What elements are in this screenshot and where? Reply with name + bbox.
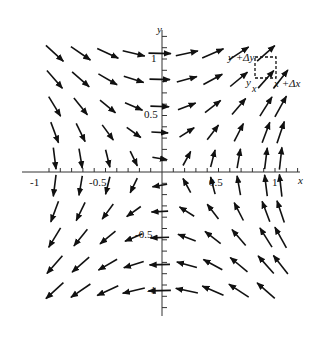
field-arrow	[229, 284, 249, 297]
field-arrow	[130, 151, 137, 166]
field-arrow	[127, 127, 141, 137]
field-arrow	[202, 49, 223, 58]
field-arrow	[230, 72, 247, 86]
annotation-x: x	[252, 84, 256, 94]
field-arrow	[257, 283, 275, 299]
field-arrow	[234, 203, 243, 221]
field-arrow	[46, 45, 64, 61]
field-arrow	[211, 150, 216, 167]
field-arrow	[124, 76, 144, 82]
field-arrow	[98, 259, 117, 270]
field-arrow	[74, 98, 88, 115]
x-tick-label-neg05: -0.5	[89, 177, 106, 188]
field-arrow	[232, 98, 246, 114]
field-arrow	[100, 100, 116, 113]
field-arrow	[207, 204, 218, 219]
field-arrow	[180, 207, 195, 216]
field-arrow	[46, 283, 64, 299]
field-arrow	[207, 125, 218, 140]
field-arrow	[106, 150, 110, 168]
field-arrow	[151, 211, 168, 212]
field-arrow	[53, 175, 56, 197]
field-arrow	[51, 122, 59, 143]
field-arrow	[279, 174, 282, 196]
field-arrow	[152, 157, 167, 160]
field-arrow	[180, 128, 195, 137]
field-arrow	[71, 47, 91, 60]
field-arrow	[49, 97, 61, 117]
field-arrow	[258, 71, 274, 89]
annotation-y-plus-dy: y +Δy	[228, 52, 254, 63]
field-arrow	[277, 201, 284, 223]
y-tick-label-1: 1	[151, 53, 157, 64]
field-arrow	[183, 179, 191, 193]
field-arrow	[151, 132, 168, 133]
field-arrow	[275, 96, 287, 117]
x-tick-label-neg1: -1	[30, 177, 39, 188]
field-arrow	[150, 264, 171, 265]
y-tick-label-neg1: -1	[147, 285, 156, 296]
annotation-x-plus-dx: x +Δx	[274, 78, 300, 89]
field-arrow	[102, 125, 113, 140]
field-arrow	[178, 234, 196, 241]
field-arrow	[205, 231, 221, 243]
field-arrow	[98, 74, 117, 85]
annotation-y: y	[246, 77, 251, 88]
field-arrow	[205, 100, 221, 112]
field-arrow	[275, 227, 287, 248]
field-arrow	[265, 175, 268, 196]
field-arrow	[47, 256, 63, 274]
field-arrow	[237, 176, 240, 195]
field-arrow	[176, 288, 198, 293]
field-arrow	[260, 228, 272, 247]
field-arrow	[100, 231, 116, 244]
field-arrow	[72, 257, 89, 272]
x-axis-label: x	[298, 175, 303, 186]
field-arrow	[150, 106, 169, 107]
field-arrow	[124, 262, 144, 268]
field-arrow	[97, 286, 118, 296]
x-tick-label-05: 0.5	[209, 177, 223, 188]
field-arrow	[265, 148, 268, 169]
field-arrow	[47, 70, 63, 88]
y-axis-label: y	[157, 24, 162, 35]
field-arrow	[237, 149, 240, 168]
field-arrow	[127, 207, 141, 217]
field-arrow	[49, 228, 61, 248]
field-arrow	[183, 151, 191, 165]
field-arrow	[150, 79, 171, 80]
field-arrow	[257, 46, 275, 62]
y-tick-label-neg05: -0.5	[135, 229, 152, 240]
field-arrow	[123, 288, 145, 293]
field-arrow	[123, 51, 145, 56]
field-arrow	[176, 51, 198, 56]
field-arrow	[72, 72, 89, 87]
x-tick-label-1: 1	[272, 177, 278, 188]
field-arrow	[79, 176, 82, 196]
field-arrow	[97, 49, 118, 59]
field-arrow	[76, 202, 85, 220]
field-arrow	[130, 178, 137, 193]
field-arrow	[234, 124, 243, 142]
field-arrow	[51, 201, 59, 222]
field-arrow	[79, 149, 82, 169]
field-arrow	[262, 201, 270, 222]
field-arrow	[258, 256, 274, 274]
field-arrow	[177, 77, 197, 82]
field-arrow	[71, 284, 91, 297]
y-tick-label-05: 0.5	[144, 109, 158, 120]
field-arrow	[279, 147, 282, 169]
field-arrow	[203, 260, 222, 270]
field-arrow	[177, 262, 197, 267]
field-arrow	[102, 204, 113, 219]
field-arrow	[232, 230, 246, 246]
field-arrow	[74, 229, 88, 246]
field-arrow	[152, 184, 167, 187]
field-arrow	[203, 74, 222, 84]
field-arrow	[262, 122, 270, 143]
vector-field-plot	[0, 0, 323, 342]
field-arrow	[178, 103, 196, 110]
field-arrow	[273, 255, 288, 274]
field-arrow	[260, 97, 272, 116]
field-arrow	[202, 286, 223, 295]
